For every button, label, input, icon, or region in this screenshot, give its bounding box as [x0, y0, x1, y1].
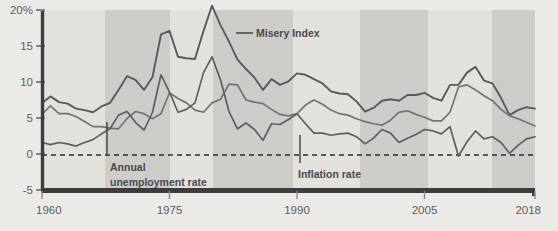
y-axis-tick-label: -5 — [23, 184, 33, 196]
misery-index-line-chart: 20%151050-5 19601975199020052018 Misery … — [0, 0, 558, 231]
x-axis-tick-label: 1960 — [36, 204, 62, 216]
y-axis-tick-label: 0 — [27, 148, 33, 160]
annual-unemployment-rate-label-line1: Annual — [110, 161, 146, 173]
y-axis-tick-label: 15 — [20, 40, 33, 52]
x-axis-tick-label: 2018 — [515, 204, 541, 216]
x-axis-tick-label: 2005 — [412, 204, 438, 216]
y-axis-tick-label: 20% — [10, 4, 33, 16]
inflation-rate-label: Inflation rate — [298, 168, 361, 180]
annual-unemployment-rate-label-line2: unemployment rate — [110, 176, 207, 188]
misery-index-label: Misery Index — [256, 27, 320, 39]
y-axis-tick-label: 10 — [20, 76, 33, 88]
chart-container: 20%151050-5 19601975199020052018 Misery … — [0, 0, 558, 231]
shaded-band — [492, 10, 535, 190]
y-axis-tick-label: 5 — [27, 112, 33, 124]
x-axis-tick-label: 1975 — [157, 204, 183, 216]
x-axis-tick-label: 1990 — [284, 204, 310, 216]
